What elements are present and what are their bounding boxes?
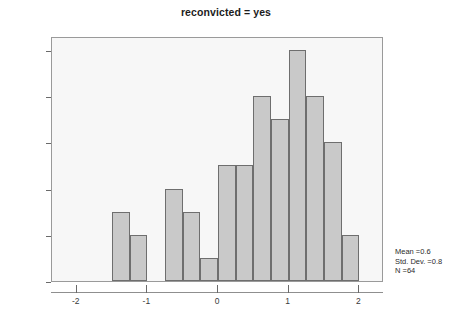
x-tick-mark <box>358 285 359 293</box>
histogram-bar <box>165 189 183 281</box>
histogram-bar <box>306 96 324 281</box>
x-axis: -2-1012 <box>0 282 452 328</box>
histogram-bar <box>112 212 130 281</box>
plot-area <box>51 37 383 282</box>
histogram-bar <box>253 96 271 281</box>
x-tick-mark <box>217 285 218 293</box>
bars-container <box>52 38 382 281</box>
histogram-chart: reconvicted = yes 0246810 -2-1012 Mean =… <box>0 0 452 328</box>
x-tick-label: 1 <box>285 296 290 306</box>
histogram-bar <box>324 142 342 281</box>
stat-n: N =64 <box>395 266 452 276</box>
x-tick-label: -2 <box>72 296 80 306</box>
y-axis: 0246810 <box>0 0 51 328</box>
histogram-bar <box>289 50 307 281</box>
x-tick-label: 0 <box>215 296 220 306</box>
histogram-bar <box>271 119 289 281</box>
x-tick-label: 2 <box>356 296 361 306</box>
x-tick-mark <box>146 285 147 293</box>
histogram-bar <box>183 212 201 281</box>
x-tick-mark <box>288 285 289 293</box>
x-tick-label: -1 <box>143 296 151 306</box>
stat-std-dev: Std. Dev. =0.8 <box>395 257 452 267</box>
histogram-bar <box>218 165 236 281</box>
stat-mean: Mean =0.6 <box>395 247 452 257</box>
histogram-bar <box>236 165 254 281</box>
x-tick-mark <box>76 285 77 293</box>
statistics-annotation: Mean =0.6 Std. Dev. =0.8 N =64 <box>395 247 452 276</box>
histogram-bar <box>342 235 360 281</box>
chart-title: reconvicted = yes <box>0 6 452 18</box>
histogram-bar <box>130 235 148 281</box>
histogram-bar <box>200 258 218 281</box>
